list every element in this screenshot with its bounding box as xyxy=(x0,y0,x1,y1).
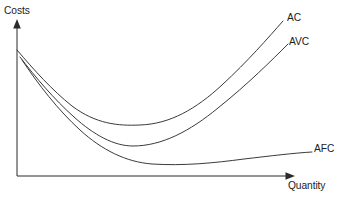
curve-label-ac: AC xyxy=(287,11,301,23)
curve-afc xyxy=(22,60,312,165)
curve-label-avc: AVC xyxy=(289,35,309,47)
y-axis-label: Costs xyxy=(4,4,30,16)
curve-label-afc: AFC xyxy=(314,142,334,154)
curve-ac xyxy=(17,21,283,125)
cost-curves-figure: Costs Quantity AC AVC AFC xyxy=(0,0,346,200)
y-axis-arrow-icon xyxy=(13,19,21,29)
x-axis-label: Quantity xyxy=(288,179,325,191)
chart-canvas xyxy=(0,0,346,200)
